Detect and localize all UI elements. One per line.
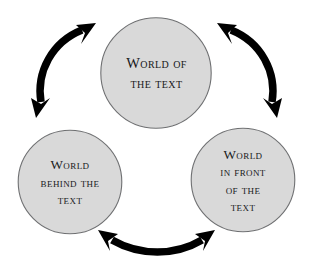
diagram-canvas	[0, 0, 313, 270]
cycle-diagram: World of the text World behind the text …	[0, 0, 313, 270]
node-world-in-front-text	[191, 128, 295, 232]
node-world-of-text	[101, 18, 211, 128]
arrow-bottom	[98, 230, 215, 252]
arrow-top-right	[217, 23, 282, 118]
node-world-behind-text	[18, 130, 122, 234]
arrow-left-top	[31, 23, 96, 118]
